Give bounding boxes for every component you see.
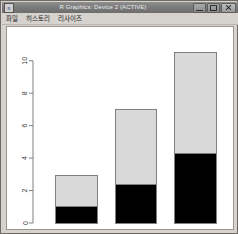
y-axis-tick-label: 10 xyxy=(22,57,29,65)
bar-segment xyxy=(175,53,217,154)
bar-group xyxy=(175,53,217,223)
menu-item-resize[interactable]: 리사이즈 xyxy=(54,13,86,24)
r-logo-icon: R xyxy=(4,3,14,13)
svg-text:R: R xyxy=(7,6,11,11)
bar-group xyxy=(115,109,157,223)
window-title: R Graphics: Device 2 (ACTIVE) xyxy=(14,2,192,13)
close-button[interactable] xyxy=(221,3,236,13)
bar-segment xyxy=(115,184,157,223)
bar-segment xyxy=(175,153,217,223)
minimize-button[interactable] xyxy=(193,3,206,13)
title-bar[interactable]: R R Graphics: Device 2 (ACTIVE) xyxy=(2,2,238,13)
bar-segment xyxy=(115,109,157,184)
stacked-bar-chart: 0246810 xyxy=(7,27,233,229)
maximize-button[interactable] xyxy=(207,3,220,13)
menu-item-file[interactable]: 파일 xyxy=(2,13,22,24)
graphics-client-area: 0246810 xyxy=(6,26,234,230)
bar-segment xyxy=(56,176,98,207)
menu-item-history[interactable]: 히스토리 xyxy=(22,13,54,24)
chart-canvas: 0246810 xyxy=(7,27,233,229)
y-axis-tick-label: 8 xyxy=(22,91,29,95)
menu-bar: 파일 히스토리 리사이즈 xyxy=(2,13,238,25)
y-axis-tick-label: 4 xyxy=(22,156,29,160)
window-controls xyxy=(192,3,236,13)
y-axis-tick-label: 0 xyxy=(22,221,29,225)
y-axis-tick-label: 6 xyxy=(22,124,29,128)
r-graphics-window: R R Graphics: Device 2 (ACTIVE) 파일 히스토리 … xyxy=(0,0,238,234)
bar-group xyxy=(56,176,98,223)
y-axis-tick-label: 2 xyxy=(22,189,29,193)
bar-segment xyxy=(56,207,98,223)
